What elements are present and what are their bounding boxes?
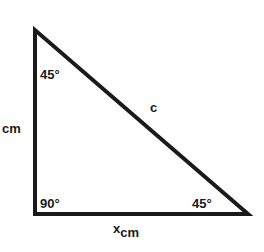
right-triangle [35,30,248,214]
bottom-side-label: xcm [113,222,139,235]
bottom-side-unit: cm [120,225,139,240]
hypotenuse-label: c [150,101,157,114]
angle-right-label: 90° [40,197,60,210]
angle-bottom-right-label: 45° [192,197,212,210]
left-side-label: cm [2,122,21,135]
angle-top-label: 45° [40,68,60,81]
triangle-figure [0,0,264,252]
